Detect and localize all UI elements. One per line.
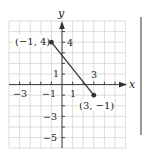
y-tick-label: −3 bbox=[43, 111, 57, 122]
y-axis-arrow-icon bbox=[59, 21, 65, 29]
y-axis-label: y bbox=[57, 7, 65, 20]
x-axis-label: x bbox=[129, 78, 136, 91]
x-axis bbox=[9, 82, 127, 88]
y-tick-label: 1 bbox=[53, 68, 59, 79]
side-divider bbox=[140, 17, 142, 135]
y-tick-label: −5 bbox=[43, 132, 57, 143]
point-a-label: (−1, 4) bbox=[15, 36, 50, 47]
y-tick-label: 4 bbox=[67, 37, 73, 48]
point-b-marker bbox=[91, 93, 96, 98]
point-b-label: (3, −1) bbox=[79, 100, 114, 111]
x-tick-label: 3 bbox=[91, 69, 97, 80]
x-tick-label: −3 bbox=[13, 88, 27, 99]
coordinate-plane: x y −3 −1 1 3 4 1 −3 −5 (−1, 4) (3, −1) bbox=[0, 0, 145, 158]
x-tick-label: −1 bbox=[42, 88, 56, 99]
x-tick-label: 1 bbox=[70, 88, 76, 99]
